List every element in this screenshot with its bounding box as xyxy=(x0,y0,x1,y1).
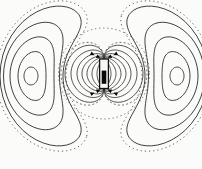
magnetic-dipole-field-diagram xyxy=(0,0,202,169)
figure-canvas xyxy=(0,0,202,169)
bar-magnet xyxy=(100,59,109,89)
magnet-core xyxy=(102,71,107,84)
